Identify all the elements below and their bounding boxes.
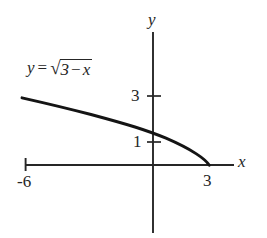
y-tick-label-1: 1 [133, 133, 142, 150]
graph-canvas [0, 0, 267, 238]
y-tick-label-3: 3 [131, 87, 140, 104]
equation-annotation: y = √ 3−x [27, 59, 92, 79]
radicand-variable: x [83, 60, 91, 79]
y-axis-label: y [148, 11, 156, 28]
curve-sqrt-3-minus-x [22, 98, 209, 165]
equation-lhs: y [27, 59, 35, 76]
radicand-constant: 3 [61, 60, 70, 79]
equation-equals-sign: = [38, 59, 48, 76]
x-tick-label-3: 3 [203, 172, 212, 189]
radicand: 3−x [60, 59, 93, 79]
function-graph-figure: y x 3 1 -6 3 y = √ 3−x [0, 0, 267, 238]
radicand-minus-sign: − [69, 60, 83, 79]
radical-expression: √ 3−x [50, 59, 92, 79]
x-tick-label-neg6: -6 [17, 173, 31, 190]
x-axis-label: x [238, 153, 246, 170]
